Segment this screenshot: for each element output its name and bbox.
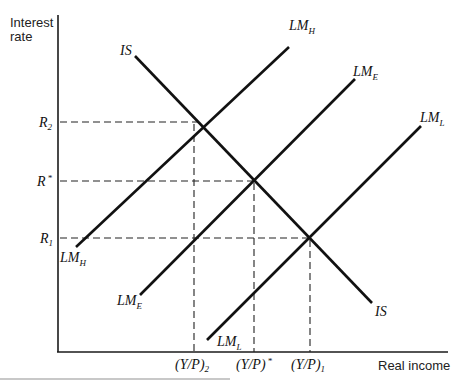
yp2-label: (Y/P)2 — [175, 357, 210, 374]
lm-l-curve — [207, 126, 421, 340]
lm-l-label-top: LML — [419, 110, 444, 128]
lm-e-label-bottom: LME — [116, 293, 142, 311]
ypstar-label: (Y/P)* — [236, 356, 273, 373]
lm-h-curve — [76, 47, 289, 247]
is-label-bottom: IS — [374, 304, 387, 319]
lm-l-label-bottom: LML — [216, 334, 241, 352]
lm-e-curve — [140, 79, 355, 295]
lm-h-label-bottom: LMH — [59, 250, 86, 268]
r1-label: R1 — [39, 231, 53, 248]
y-axis-label: Interest rate — [10, 15, 57, 44]
is-label-top: IS — [119, 43, 132, 58]
lm-h-label-top: LMH — [288, 18, 315, 36]
lm-e-label-top: LME — [352, 64, 378, 82]
page-edge-rule — [0, 378, 230, 380]
is-lm-diagram: Interest rate Real income IS IS LMH LMH … — [0, 0, 459, 383]
x-axis-label: Real income — [378, 358, 450, 373]
yp1-label: (Y/P)1 — [291, 357, 325, 374]
rstar-label: R* — [36, 173, 53, 189]
r2-label: R2 — [38, 115, 53, 132]
